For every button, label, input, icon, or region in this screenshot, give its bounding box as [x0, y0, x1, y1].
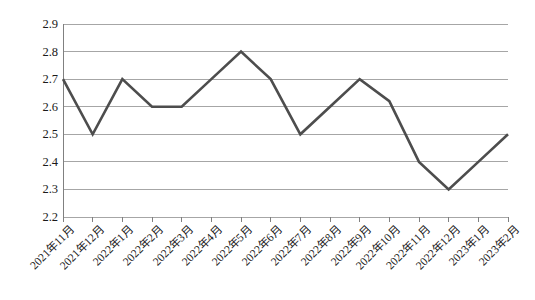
line-chart: 2.92.82.72.62.52.42.32.2 2021年11月2021年12…: [0, 0, 535, 300]
x-axis-labels: 2021年11月2021年12月2022年1月2022年2月2022年3月202…: [0, 0, 535, 300]
